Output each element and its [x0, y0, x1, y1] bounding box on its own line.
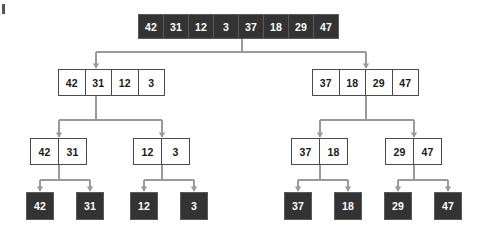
- merge-sort-tree-diagram: 4231123371829474231123371829474231123371…: [0, 0, 479, 232]
- array-cell: 18: [334, 192, 362, 220]
- array-cell: 29: [384, 192, 412, 220]
- array-cell: 12: [111, 69, 139, 96]
- array-node-L3: 3: [180, 192, 208, 220]
- array-cell: 18: [263, 14, 289, 39]
- array-node-RR: 2947: [385, 138, 442, 165]
- connector-arrowhead: [37, 187, 43, 192]
- array-cell: 12: [130, 192, 158, 220]
- connector-arrowhead: [411, 133, 417, 138]
- array-cell: 37: [312, 69, 340, 96]
- array-cell: 37: [284, 192, 312, 220]
- array-node-R2: 29: [384, 192, 412, 220]
- array-cell: 12: [133, 138, 162, 165]
- array-cell: 47: [392, 69, 420, 96]
- array-node-R1: 18: [334, 192, 362, 220]
- connector-arrowhead: [395, 187, 401, 192]
- array-cell: 42: [138, 14, 164, 39]
- array-node-L: 4231123: [58, 69, 165, 96]
- connector-arrowhead: [93, 64, 99, 69]
- array-node-L2: 12: [130, 192, 158, 220]
- array-cell: 29: [288, 14, 314, 39]
- array-cell: 31: [85, 69, 113, 96]
- array-node-L1: 31: [76, 192, 104, 220]
- connector-arrowhead: [363, 64, 369, 69]
- array-cell: 47: [313, 14, 339, 39]
- array-node-R3: 47: [434, 192, 462, 220]
- array-cell: 31: [58, 138, 87, 165]
- array-cell: 42: [58, 69, 86, 96]
- array-cell: 3: [161, 138, 190, 165]
- connector-arrowhead: [345, 187, 351, 192]
- connector-arrowhead: [317, 133, 323, 138]
- array-cell: 31: [163, 14, 189, 39]
- array-cell: 12: [188, 14, 214, 39]
- connector-arrowhead: [445, 187, 451, 192]
- array-cell: 31: [76, 192, 104, 220]
- array-node-RL: 3718: [291, 138, 348, 165]
- array-cell: 3: [138, 69, 166, 96]
- array-node-R0: 37: [284, 192, 312, 220]
- array-cell: 3: [213, 14, 239, 39]
- array-cell: 18: [339, 69, 367, 96]
- array-cell: 37: [291, 138, 320, 165]
- connector-arrowhead: [191, 187, 197, 192]
- array-cell: 42: [26, 192, 54, 220]
- connector-arrowhead: [141, 187, 147, 192]
- array-cell: 47: [413, 138, 442, 165]
- connector-arrowhead: [56, 133, 62, 138]
- array-node-root: 423112337182947: [138, 14, 339, 39]
- array-node-R: 37182947: [312, 69, 419, 96]
- array-cell: 37: [238, 14, 264, 39]
- array-node-LR: 123: [133, 138, 190, 165]
- array-node-LL: 4231: [30, 138, 87, 165]
- array-cell: 47: [434, 192, 462, 220]
- connector-arrowhead: [159, 133, 165, 138]
- array-cell: 3: [180, 192, 208, 220]
- array-cell: 42: [30, 138, 59, 165]
- connector-arrowhead: [295, 187, 301, 192]
- connector-arrowhead: [87, 187, 93, 192]
- array-cell: 29: [385, 138, 414, 165]
- array-cell: 18: [319, 138, 348, 165]
- array-cell: 29: [365, 69, 393, 96]
- array-node-L0: 42: [26, 192, 54, 220]
